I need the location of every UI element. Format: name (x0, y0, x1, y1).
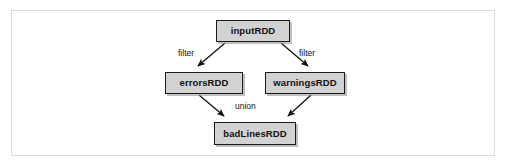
edge-label-filter-left: filter (178, 49, 194, 58)
node-errors-rdd[interactable]: errorsRDD (165, 72, 243, 94)
edge-label-union: union (235, 102, 256, 111)
node-badlines-rdd[interactable]: badLinesRDD (214, 122, 296, 145)
node-input-rdd[interactable]: inputRDD (216, 20, 290, 42)
node-errors-rdd-label: errorsRDD (180, 78, 229, 88)
edge-input-to-errors (198, 43, 225, 66)
edge-label-filter-right: filter (299, 49, 315, 58)
node-input-rdd-label: inputRDD (231, 26, 276, 36)
node-badlines-rdd-label: badLinesRDD (223, 129, 286, 139)
edge-warnings-to-badlines (288, 95, 311, 116)
node-warnings-rdd[interactable]: warningsRDD (265, 72, 345, 94)
edge-errors-to-badlines (199, 95, 224, 116)
node-warnings-rdd-label: warningsRDD (273, 78, 336, 88)
